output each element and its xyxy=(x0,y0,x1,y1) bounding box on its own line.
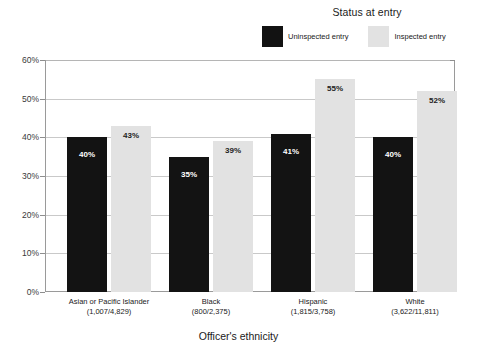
x-label-white: White (3,622/11,811) xyxy=(345,297,477,317)
bar-uninspected-black: 35% xyxy=(169,157,209,292)
bar-value-label: 41% xyxy=(271,147,311,156)
bar-uninspected-hispanic: 41% xyxy=(271,134,311,293)
bar-inspected-asian-or-pacific-islander: 43% xyxy=(111,126,151,292)
bar-value-label: 43% xyxy=(111,131,151,140)
y-tick-label-0: 0% xyxy=(3,287,39,297)
bar-group-asian-or-pacific-islander: 40% 43% xyxy=(67,60,151,292)
bar-inspected-white: 52% xyxy=(417,91,457,292)
bar-series-container: 40% 43% 35% 39% 41% 55% xyxy=(45,60,455,292)
x-axis-title: Officer's ethnicity xyxy=(0,330,477,342)
bar-inspected-black: 39% xyxy=(213,141,253,292)
x-label-count: (3,622/11,811) xyxy=(345,307,477,317)
bar-group-hispanic: 41% 55% xyxy=(271,60,355,292)
y-tick-label-60: 60% xyxy=(3,55,39,65)
bar-uninspected-asian-or-pacific-islander: 40% xyxy=(67,137,107,292)
bar-value-label: 40% xyxy=(373,150,413,159)
bar-group-black: 35% 39% xyxy=(169,60,253,292)
y-tick-label-50: 50% xyxy=(3,94,39,104)
bar-group-white: 40% 52% xyxy=(373,60,457,292)
y-tick-mark-0 xyxy=(40,292,45,293)
bar-value-label: 55% xyxy=(315,84,355,93)
y-tick-label-20: 20% xyxy=(3,210,39,220)
y-tick-label-30: 30% xyxy=(3,171,39,181)
bar-value-label: 40% xyxy=(67,150,107,159)
y-tick-label-40: 40% xyxy=(3,132,39,142)
bar-uninspected-white: 40% xyxy=(373,137,413,292)
bar-chart: Status at entry Uninspected entry Inspec… xyxy=(0,0,477,354)
bar-value-label: 52% xyxy=(417,96,457,105)
y-tick-label-10: 10% xyxy=(3,248,39,258)
bar-inspected-hispanic: 55% xyxy=(315,79,355,292)
bar-value-label: 35% xyxy=(169,170,209,179)
x-label-name: White xyxy=(345,297,477,307)
bar-value-label: 39% xyxy=(213,146,253,155)
